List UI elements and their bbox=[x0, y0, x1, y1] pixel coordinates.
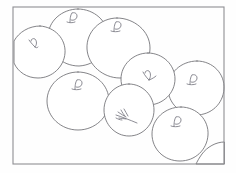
apple-center bbox=[104, 84, 154, 136]
apple-mid-left bbox=[47, 72, 109, 130]
apple-sketch-drawing bbox=[0, 0, 236, 173]
apple-outline-shape bbox=[152, 107, 208, 161]
apple-outline-shape bbox=[14, 26, 65, 78]
apple-top-left bbox=[14, 26, 65, 78]
apple-bottom-right bbox=[152, 107, 208, 161]
apple-outline-shape bbox=[47, 72, 109, 130]
apple-outline-shape bbox=[104, 84, 154, 136]
sketch-canvas: Apples still life sketch pencil line dra… bbox=[0, 0, 236, 173]
